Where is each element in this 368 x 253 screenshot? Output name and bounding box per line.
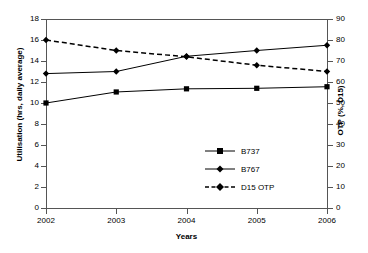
legend-label-b767: B767	[241, 165, 260, 174]
data-point	[43, 100, 48, 105]
data-point	[43, 37, 49, 43]
data-point	[113, 68, 119, 74]
series-layer	[0, 0, 368, 253]
data-point	[254, 86, 259, 91]
data-point	[113, 47, 119, 53]
data-point	[324, 84, 329, 89]
data-point	[254, 47, 260, 53]
data-point	[184, 86, 189, 91]
data-point	[183, 54, 189, 60]
legend-key-b767	[203, 160, 237, 178]
legend-key-d15-otp	[203, 178, 237, 196]
legend-key-b737	[203, 142, 237, 160]
data-point	[254, 62, 260, 68]
series-d15-otp	[43, 37, 330, 75]
legend-label-d15-otp: D15 OTP	[241, 183, 274, 192]
chart-container: 024681012141618 0102030405060708090 2002…	[0, 0, 368, 253]
data-point	[43, 70, 49, 76]
legend-label-b737: B737	[241, 147, 260, 156]
data-point	[324, 42, 330, 48]
series-b737	[43, 84, 329, 105]
data-point	[324, 68, 330, 74]
data-point	[114, 89, 119, 94]
